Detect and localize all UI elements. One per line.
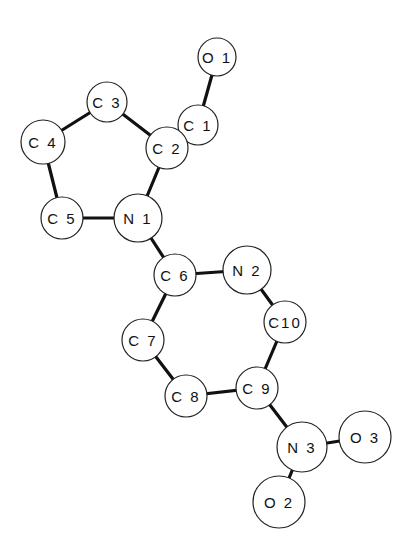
atom-n2: N 2 (223, 246, 271, 294)
atom-label: C10 (268, 314, 302, 331)
atom-o3: O 3 (339, 411, 391, 463)
molecular-structure-diagram: O 1C 1C 2C 3C 4C 5N 1C 6N 2C10C 7C 8C 9N… (0, 0, 417, 548)
atom-label: C 5 (47, 210, 76, 227)
atom-c7: C 7 (122, 319, 164, 361)
atoms-layer: O 1C 1C 2C 3C 4C 5N 1C 6N 2C10C 7C 8C 9N… (21, 38, 391, 528)
atom-label: C 8 (171, 388, 200, 405)
atom-label: N 2 (232, 262, 261, 279)
atom-c6: C 6 (154, 254, 196, 296)
atom-label: O 3 (350, 429, 380, 446)
atom-o2: O 2 (253, 476, 305, 528)
atom-label: C 9 (242, 380, 271, 397)
atom-c5: C 5 (41, 197, 83, 239)
atom-c8: C 8 (165, 375, 207, 417)
atom-n3: N 3 (277, 422, 327, 472)
atom-label: C 2 (152, 140, 181, 157)
atom-label: O 1 (202, 49, 232, 66)
atom-c4: C 4 (21, 120, 65, 164)
atom-label: N 1 (123, 210, 152, 227)
atom-o1: O 1 (198, 38, 236, 76)
atom-label: C 7 (128, 332, 157, 349)
atom-label: C 1 (183, 117, 212, 134)
atom-c3: C 3 (87, 82, 127, 122)
atom-label: C 3 (92, 94, 121, 111)
atom-c10: C10 (264, 301, 306, 343)
atom-c2: C 2 (146, 127, 188, 169)
atom-c9: C 9 (236, 367, 278, 409)
atom-label: O 2 (264, 494, 294, 511)
atom-n1: N 1 (114, 194, 162, 242)
atom-label: C 6 (160, 267, 189, 284)
atom-label: N 3 (287, 439, 316, 456)
atom-label: C 4 (28, 134, 57, 151)
